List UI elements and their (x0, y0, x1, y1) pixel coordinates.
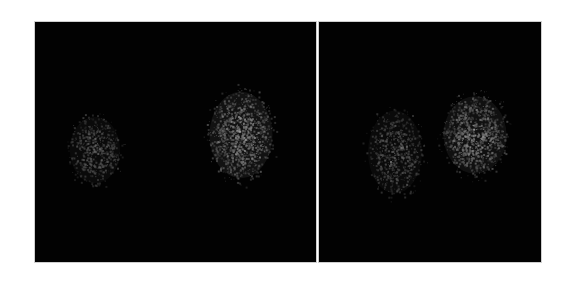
micrograph-panel-right (319, 22, 541, 262)
fluorescent-blob (204, 84, 279, 189)
speckle-layer (35, 22, 316, 262)
fluorescent-blob (68, 114, 127, 188)
micrograph-figure (0, 0, 569, 281)
fluorescent-blob (437, 90, 511, 182)
fluorescent-blob (363, 107, 429, 202)
speckle-layer (319, 22, 541, 262)
micrograph-panel-left (35, 22, 316, 262)
